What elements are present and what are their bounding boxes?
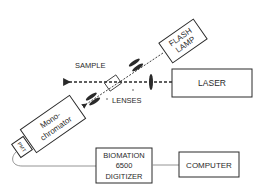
lens-pair-lower [85, 91, 101, 106]
monochromator-box: Mono- chromator [20, 95, 85, 152]
digitizer-label-3: DIGITIZER [105, 172, 143, 181]
apparatus-diagram: FLASH LAMP LASER SAMPLE LENSES Mono- chr… [0, 0, 262, 192]
sample-label: SAMPLE [75, 61, 105, 70]
lens-pointer-dot [106, 98, 107, 99]
lens-pointer-dot [132, 89, 133, 90]
lenses-label: LENSES [112, 96, 142, 105]
computer-box: COMPUTER [179, 152, 239, 177]
sample-cuvette [104, 75, 121, 91]
lens-icon [149, 74, 153, 90]
lens-pair-upper [128, 57, 144, 72]
laser-label: LASER [198, 78, 226, 88]
digitizer-label-2: 6500 [116, 161, 133, 170]
digitizer-box: BIOMATION 6500 DIGITIZER [96, 148, 152, 183]
digitizer-label-1: BIOMATION [103, 151, 145, 160]
flash-lamp-box: FLASH LAMP [159, 19, 207, 63]
computer-label: COMPUTER [186, 161, 232, 170]
laser-box: LASER [172, 69, 252, 97]
